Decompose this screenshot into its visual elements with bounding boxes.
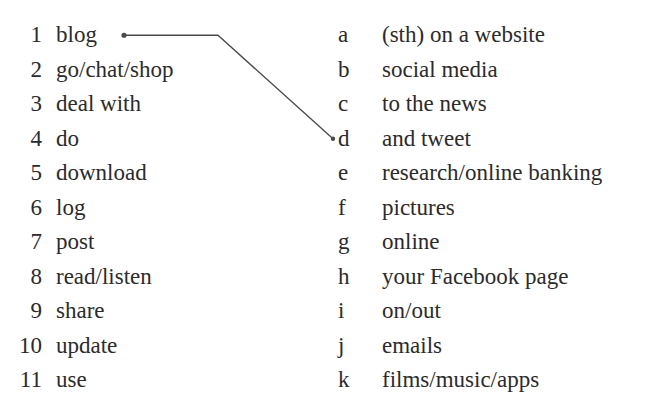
match-row[interactable]: 10update <box>0 329 330 364</box>
matching-exercise-worksheet: 1blog2go/chat/shop3deal with4do5download… <box>0 0 654 414</box>
right-item-marker: h <box>322 260 364 295</box>
left-item-term: do <box>42 122 330 157</box>
left-item-term: share <box>42 294 330 329</box>
left-item-term: go/chat/shop <box>42 53 330 88</box>
right-item-term: pictures <box>364 191 654 226</box>
right-item-marker: g <box>322 225 364 260</box>
right-item-marker: b <box>322 53 364 88</box>
right-item-term: social media <box>364 53 654 88</box>
right-item-marker: f <box>322 191 364 226</box>
right-item-term: on/out <box>364 294 654 329</box>
match-row[interactable]: 4do <box>0 122 330 157</box>
right-item-term: research/online banking <box>364 156 654 191</box>
right-item-term: online <box>364 225 654 260</box>
left-item-marker: 4 <box>0 122 42 157</box>
right-item-term: to the news <box>364 87 654 122</box>
left-column: 1blog2go/chat/shop3deal with4do5download… <box>0 18 330 398</box>
left-item-marker: 3 <box>0 87 42 122</box>
match-row[interactable]: fpictures <box>322 191 654 226</box>
right-item-marker: i <box>322 294 364 329</box>
match-row[interactable]: 11use <box>0 363 330 398</box>
match-row[interactable]: ion/out <box>322 294 654 329</box>
right-column: a(sth) on a websitebsocial mediacto the … <box>322 18 654 398</box>
match-row[interactable]: 9share <box>0 294 330 329</box>
left-item-term: log <box>42 191 330 226</box>
left-item-term: post <box>42 225 330 260</box>
match-row[interactable]: 1blog <box>0 18 330 53</box>
match-row[interactable]: 3deal with <box>0 87 330 122</box>
right-item-marker: e <box>322 156 364 191</box>
left-item-term: download <box>42 156 330 191</box>
match-row[interactable]: kfilms/music/apps <box>322 363 654 398</box>
right-item-marker: k <box>322 363 364 398</box>
left-item-marker: 11 <box>0 363 42 398</box>
left-item-term: deal with <box>42 87 330 122</box>
right-item-term: films/music/apps <box>364 363 654 398</box>
left-item-marker: 5 <box>0 156 42 191</box>
right-item-term: emails <box>364 329 654 364</box>
left-item-term: update <box>42 329 330 364</box>
right-item-term: your Facebook page <box>364 260 654 295</box>
match-row[interactable]: dand tweet <box>322 122 654 157</box>
match-row[interactable]: eresearch/online banking <box>322 156 654 191</box>
match-row[interactable]: 7post <box>0 225 330 260</box>
left-item-marker: 6 <box>0 191 42 226</box>
match-row[interactable]: cto the news <box>322 87 654 122</box>
left-item-term: read/listen <box>42 260 330 295</box>
match-row[interactable]: jemails <box>322 329 654 364</box>
match-row[interactable]: 2go/chat/shop <box>0 53 330 88</box>
left-item-marker: 7 <box>0 225 42 260</box>
match-row[interactable]: bsocial media <box>322 53 654 88</box>
match-row[interactable]: 5download <box>0 156 330 191</box>
match-row[interactable]: 8read/listen <box>0 260 330 295</box>
left-item-marker: 8 <box>0 260 42 295</box>
left-item-marker: 1 <box>0 18 42 53</box>
match-row[interactable]: gonline <box>322 225 654 260</box>
right-item-marker: j <box>322 329 364 364</box>
match-row[interactable]: 6log <box>0 191 330 226</box>
right-item-marker: d <box>322 122 364 157</box>
right-item-term: (sth) on a website <box>364 18 654 53</box>
match-row[interactable]: a(sth) on a website <box>322 18 654 53</box>
right-item-term: and tweet <box>364 122 654 157</box>
left-item-marker: 2 <box>0 53 42 88</box>
left-item-term: use <box>42 363 330 398</box>
left-item-marker: 10 <box>0 329 42 364</box>
left-item-marker: 9 <box>0 294 42 329</box>
left-item-term: blog <box>42 18 330 53</box>
right-item-marker: a <box>322 18 364 53</box>
right-item-marker: c <box>322 87 364 122</box>
match-row[interactable]: hyour Facebook page <box>322 260 654 295</box>
